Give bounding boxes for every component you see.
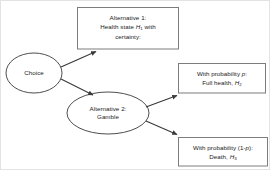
node-alternative-1-line-3: certainty: — [78, 33, 178, 42]
edge-alternative-2-to-outcome-death — [146, 121, 177, 135]
outcome-full-health-line-1: With probability p: — [179, 70, 265, 79]
outcome-full-health-line-2: Full health, H2 — [179, 79, 265, 90]
outcome-death-line-2-pre: Death, — [209, 153, 229, 160]
outcome-death-line-1-post: ): — [249, 144, 253, 151]
outcome-death-line-1: With probability (1-p): — [179, 144, 267, 153]
node-outcome-death-label: With probability (1-p): Death, H3 — [179, 144, 267, 163]
node-outcome-full-health-label: With probability p: Full health, H2 — [179, 70, 265, 89]
outcome-full-health-line-1-post: : — [245, 70, 247, 77]
node-alternative-1-line-1: Alternative 1: — [78, 14, 178, 23]
node-alternative-1-line-2: Health state H1 with — [78, 23, 178, 34]
outcome-death-line-2: Death, H3 — [179, 153, 267, 164]
node-alternative-2-ellipse — [67, 92, 149, 134]
outcome-death-line-1-pre: With probability (1- — [193, 144, 246, 151]
death-subscript: 3 — [234, 156, 237, 161]
outcome-full-health-line-1-pre: With probability — [197, 70, 242, 77]
node-alternative-1-label: Alternative 1: Health state H1 with cert… — [78, 14, 178, 42]
diagram-canvas: Choice Alternative 2: Gamble Alternative… — [0, 0, 270, 170]
full-health-subscript: 2 — [239, 82, 242, 87]
edge-alternative-2-to-outcome-full-health — [146, 96, 177, 108]
outcome-full-health-line-2-pre: Full health, — [202, 79, 235, 86]
edge-choice-to-alternative-1 — [61, 52, 96, 68]
node-alternative-1-line-2-post: with — [143, 23, 156, 30]
node-choice-ellipse — [6, 53, 62, 93]
edge-choice-to-alternative-2 — [61, 79, 93, 95]
node-alternative-1-line-2-pre: Health state — [100, 23, 135, 30]
